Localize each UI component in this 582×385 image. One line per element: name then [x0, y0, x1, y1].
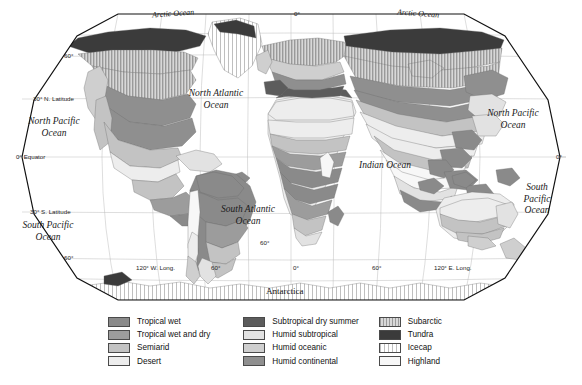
legend-swatch-subtropical-dry-summer: [243, 317, 265, 327]
label-longitude-60e: 60°: [372, 264, 381, 271]
legend-item[interactable]: Highland: [379, 356, 478, 367]
legend-item[interactable]: Icecap: [379, 342, 478, 353]
legend-swatch-tropical-wet: [108, 317, 130, 327]
legend-swatch-subarctic: [379, 317, 401, 327]
climate-map-figure: Arctic Ocean Arctic Ocean North Atlantic…: [0, 0, 582, 385]
legend-item[interactable]: Tropical wet: [108, 316, 243, 327]
legend-swatch-humid-continental: [243, 356, 265, 366]
label-longitude-0-bottom: 0°: [293, 264, 299, 271]
legend-item[interactable]: Humid oceanic: [243, 342, 378, 353]
legend-label: Icecap: [408, 342, 432, 353]
label-antarctica: Antarctica: [266, 286, 303, 296]
label-latitude-60s-mid: 60°: [260, 239, 269, 246]
label-longitude-120e: 120° E. Long.: [434, 264, 472, 271]
map-graphic: [0, 0, 582, 308]
legend-label: Humid continental: [272, 356, 338, 367]
legend-item[interactable]: Tundra: [379, 329, 478, 340]
legend-label: Desert: [137, 356, 161, 367]
legend-label: Humid subtropical: [272, 329, 338, 340]
legend-swatch-icecap: [379, 343, 401, 353]
legend-label: Subtropical dry summer: [272, 316, 358, 327]
legend-column-1: Tropical wet Tropical wet and dry Semiar…: [108, 316, 243, 367]
legend-item[interactable]: Humid continental: [243, 356, 378, 367]
legend-column-2: Subtropical dry summer Humid subtropical…: [243, 316, 378, 367]
legend-swatch-humid-oceanic: [243, 343, 265, 353]
legend-swatch-tundra: [379, 330, 401, 340]
legend-swatch-desert: [108, 356, 130, 366]
label-latitude-60s: 60°: [64, 254, 73, 261]
legend-label: Tropical wet: [137, 316, 181, 327]
europe: [256, 38, 350, 98]
label-latitude-equator: 0° Equator: [16, 153, 45, 160]
world-climate-map: Arctic Ocean Arctic Ocean North Atlantic…: [0, 0, 582, 308]
legend-item[interactable]: Subarctic: [379, 316, 478, 327]
legend-item[interactable]: Tropical wet and dry: [108, 329, 243, 340]
legend-swatch-highland: [379, 356, 401, 366]
legend-item[interactable]: Subtropical dry summer: [243, 316, 378, 327]
legend-swatch-tropical-wet-and-dry: [108, 330, 130, 340]
legend-item[interactable]: Desert: [108, 356, 243, 367]
label-latitude-equator-right: 0°: [556, 153, 562, 160]
legend-label: Subarctic: [408, 316, 442, 327]
label-latitude-30s: 30° S. Latitude: [30, 208, 71, 215]
legend-swatch-semiarid: [108, 343, 130, 353]
map-legend: Tropical wet Tropical wet and dry Semiar…: [108, 316, 478, 367]
map-body: [0, 0, 582, 308]
legend-label: Tundra: [408, 329, 434, 340]
legend-label: Semiarid: [137, 342, 169, 353]
label-longitude-0-top: 0°: [294, 10, 300, 17]
legend-label: Humid oceanic: [272, 342, 326, 353]
legend-label: Highland: [408, 356, 440, 367]
label-latitude-60n: 60°: [64, 52, 73, 59]
label-longitude-120w: 120° W. Long.: [136, 264, 175, 271]
legend-column-3: Subarctic Tundra Icecap Highland: [379, 316, 478, 367]
legend-item[interactable]: Humid subtropical: [243, 329, 378, 340]
legend-label: Tropical wet and dry: [137, 329, 210, 340]
label-longitude-60w: 60°: [211, 264, 220, 271]
legend-swatch-humid-subtropical: [243, 330, 265, 340]
legend-item[interactable]: Semiarid: [108, 342, 243, 353]
label-latitude-30n: 30° N. Latitude: [33, 95, 74, 102]
